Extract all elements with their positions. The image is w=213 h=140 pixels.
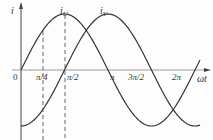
tick-pi: π — [110, 72, 115, 82]
origin-label: 0 — [13, 72, 18, 82]
waveform-plot: i ωt 0 iU iV π/4 π/2 π 3π/2 2π — [0, 0, 213, 140]
waveform-diagram: i ωt 0 iU iV π/4 π/2 π 3π/2 2π — [0, 0, 213, 140]
curve-iu-label: iU — [60, 5, 69, 18]
tick-pi-4: π/4 — [36, 72, 48, 82]
x-axis-arrow-icon — [204, 68, 211, 72]
tick-2pi: 2π — [172, 72, 182, 82]
y-axis-arrow-icon — [19, 2, 23, 9]
y-axis-label: i — [11, 5, 14, 16]
tick-3pi-2: 3π/2 — [127, 72, 145, 82]
tick-pi-2: π/2 — [67, 72, 79, 82]
x-axis-label: ωt — [197, 73, 207, 84]
